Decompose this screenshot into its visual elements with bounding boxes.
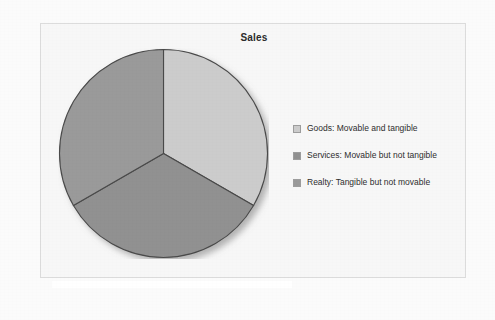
legend-label-goods: Goods: Movable and tangible [307, 123, 418, 134]
page-canvas: Sales [0, 0, 495, 320]
bottom-white-bar [52, 281, 292, 288]
chart-panel: Sales [40, 23, 466, 278]
legend-item-goods[interactable]: Goods: Movable and tangible [293, 123, 437, 134]
legend-label-realty: Realty: Tangible but not movable [307, 177, 430, 188]
chart-title: Sales [41, 32, 467, 43]
chart-legend: Goods: Movable and tangible Services: Mo… [293, 123, 437, 188]
pie-chart-svg[interactable] [58, 48, 269, 259]
pie-chart[interactable] [58, 48, 269, 259]
legend-item-realty[interactable]: Realty: Tangible but not movable [293, 177, 437, 188]
legend-swatch-icon-realty [293, 179, 301, 187]
pie-slices [59, 50, 267, 258]
legend-label-services: Services: Movable but not tangible [307, 150, 437, 161]
legend-item-services[interactable]: Services: Movable but not tangible [293, 150, 437, 161]
legend-swatch-icon-goods [293, 125, 301, 133]
legend-swatch-icon-services [293, 152, 301, 160]
